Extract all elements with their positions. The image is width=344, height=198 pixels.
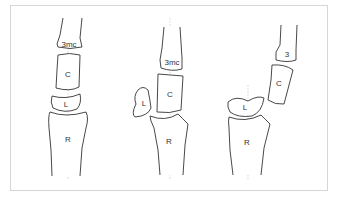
label-capitate: C [65, 70, 71, 79]
label-radius: R [244, 138, 250, 147]
label-radius: R [65, 135, 71, 144]
label-lunate: L [243, 103, 247, 112]
label-lunate: L [64, 100, 68, 109]
wrist-diagram [0, 0, 344, 198]
panel-perilunate-dislocation [228, 25, 297, 180]
label-metacarpal: 3mc [61, 40, 76, 49]
bone-radius [49, 112, 88, 176]
label-capitate: C [276, 79, 282, 88]
label-metacarpal: 3mc [164, 58, 179, 67]
label-radius: R [166, 137, 172, 146]
label-lunate: L [142, 99, 146, 108]
label-capitate: C [167, 90, 173, 99]
label-metacarpal: 3 [285, 50, 289, 59]
